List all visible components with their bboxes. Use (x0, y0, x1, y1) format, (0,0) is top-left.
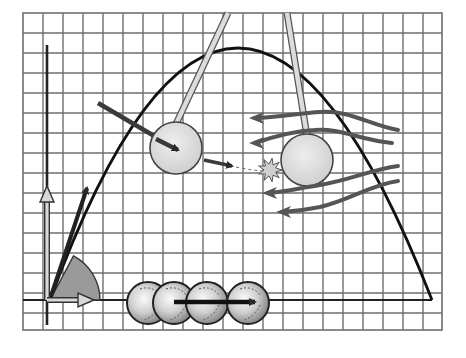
pendulum-bob-right (281, 134, 333, 186)
physics-diagram (0, 0, 466, 358)
diagram-canvas (0, 0, 466, 358)
